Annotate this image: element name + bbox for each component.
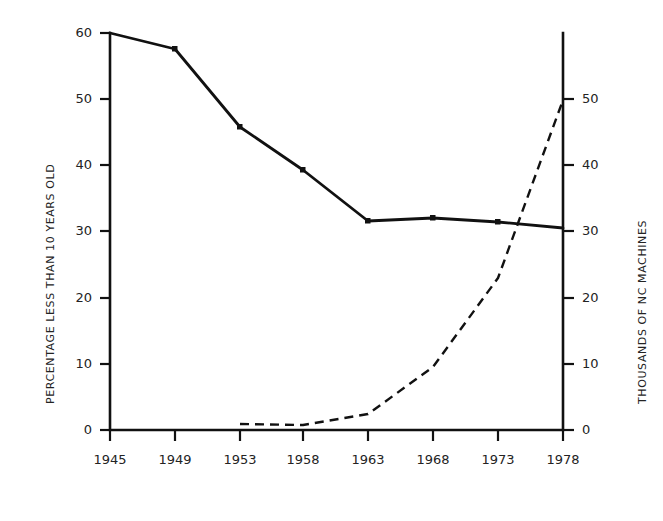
data-point-marker bbox=[430, 215, 436, 221]
y-axis-right-ticks bbox=[563, 99, 574, 430]
y-axis-left-ticks bbox=[100, 33, 110, 430]
y-tick-label-right-50: 50 bbox=[582, 91, 616, 106]
y-axis-left-title: PERCENTAGE LESS THAN 10 YEARS OLD bbox=[44, 164, 57, 404]
y-tick-label-left-20: 20 bbox=[58, 290, 92, 305]
y-tick-label-left-60: 60 bbox=[58, 25, 92, 40]
series-percentage-solid bbox=[110, 33, 563, 228]
x-tick-label-1953: 1953 bbox=[210, 452, 270, 467]
axis-frame bbox=[110, 33, 563, 430]
y-tick-label-left-50: 50 bbox=[58, 91, 92, 106]
x-tick-label-1963: 1963 bbox=[338, 452, 398, 467]
y-tick-label-right-0: 0 bbox=[582, 422, 616, 437]
data-point-marker bbox=[300, 167, 306, 173]
x-tick-label-1978: 1978 bbox=[533, 452, 593, 467]
x-tick-label-1945: 1945 bbox=[80, 452, 140, 467]
y-tick-label-left-0: 0 bbox=[58, 422, 92, 437]
y-tick-label-left-40: 40 bbox=[58, 157, 92, 172]
chart-figure: PERCENTAGE LESS THAN 10 YEARS OLD THOUSA… bbox=[0, 0, 663, 521]
y-tick-label-right-40: 40 bbox=[582, 157, 616, 172]
x-tick-label-1949: 1949 bbox=[145, 452, 205, 467]
data-point-marker bbox=[495, 219, 501, 225]
y-axis-right-title: THOUSANDS OF NC MACHINES bbox=[636, 220, 649, 404]
y-tick-label-left-30: 30 bbox=[58, 223, 92, 238]
y-tick-label-left-10: 10 bbox=[58, 356, 92, 371]
data-point-marker bbox=[172, 46, 178, 52]
y-tick-label-right-20: 20 bbox=[582, 290, 616, 305]
x-tick-label-1958: 1958 bbox=[273, 452, 333, 467]
y-tick-label-right-10: 10 bbox=[582, 356, 616, 371]
series-nc-machines-dashed bbox=[240, 100, 563, 425]
y-tick-label-right-30: 30 bbox=[582, 223, 616, 238]
data-point-marker bbox=[365, 218, 371, 224]
data-point-marker bbox=[237, 124, 243, 130]
x-axis-ticks bbox=[110, 430, 563, 441]
x-tick-label-1968: 1968 bbox=[403, 452, 463, 467]
x-tick-label-1973: 1973 bbox=[468, 452, 528, 467]
chart-plot-area bbox=[0, 0, 663, 521]
